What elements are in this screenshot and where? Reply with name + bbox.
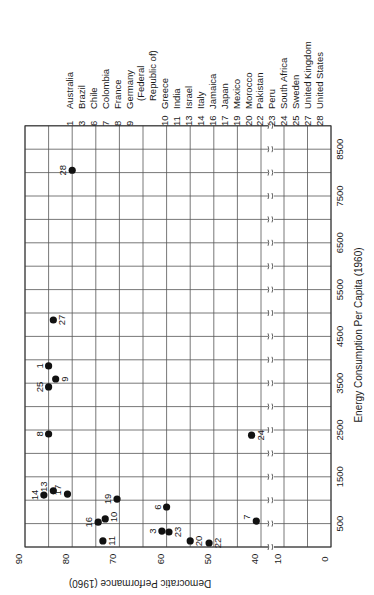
legend-number: 27 <box>302 115 313 126</box>
x-tick-label: 1500 <box>334 466 345 487</box>
x-tick-label: 5500 <box>334 279 345 300</box>
point-label: 9 <box>59 376 70 381</box>
legend-number: 23 <box>266 115 277 126</box>
point-label: 8 <box>34 431 45 436</box>
y-tick-label: 10 <box>272 554 283 565</box>
data-point-6 <box>163 503 170 510</box>
legend-number: 28 <box>314 115 325 126</box>
legend-country: Greece <box>159 78 170 109</box>
legend-country: Jamaica <box>207 73 218 109</box>
point-label: 1 <box>34 363 45 368</box>
y-tick-label: 40 <box>249 554 260 565</box>
legend-country: South Africa <box>278 57 289 109</box>
legend-number: 14 <box>195 115 206 126</box>
y-tick-label: 70 <box>107 554 118 565</box>
legend-country: Pakistan <box>254 73 265 109</box>
point-label: 6 <box>152 504 163 509</box>
legend-country: Sweden <box>290 75 301 109</box>
point-label: 14 <box>29 490 40 501</box>
data-point-3 <box>158 527 165 534</box>
legend-number: 24 <box>278 115 289 126</box>
y-tick-label: 60 <box>155 554 166 565</box>
data-point-16 <box>95 519 102 526</box>
y-tick-label: 90 <box>13 554 24 565</box>
legend-number: 20 <box>243 115 254 126</box>
legend-country: Israel <box>183 86 194 109</box>
y-tick-label: 80 <box>60 554 71 565</box>
point-label: 25 <box>34 382 45 393</box>
legend-number: 16 <box>207 115 218 126</box>
point-label: 7 <box>241 514 252 519</box>
legend-country: India <box>171 88 182 109</box>
legend-number: 8 <box>112 121 123 126</box>
data-point-7 <box>253 517 260 524</box>
legend-country: Japan <box>219 83 230 109</box>
legend-country: Germany <box>124 70 135 109</box>
point-label: 11 <box>106 536 117 546</box>
y-tick-label: 0 <box>319 556 330 561</box>
legend-country: Italy <box>195 91 206 109</box>
legend-number: 17 <box>219 115 230 126</box>
legend-country: (Federal <box>135 66 146 101</box>
x-tick-label: 8500 <box>334 139 345 160</box>
legend-number: 11 <box>171 116 182 126</box>
legend-country: Mexico <box>231 79 242 109</box>
legend-country: United Kingdom <box>302 41 313 109</box>
data-point-25 <box>45 383 52 390</box>
y-axis-label: Democratic Performance (1960) <box>69 578 211 589</box>
data-point-19 <box>113 495 120 502</box>
grid-lines <box>25 126 331 547</box>
legend-number: 6 <box>88 121 99 126</box>
legend-country: Australia <box>64 71 75 109</box>
legend-country: France <box>112 79 123 109</box>
point-label: 16 <box>83 517 94 528</box>
legend-number: 7 <box>100 121 111 126</box>
legend-country: Peru <box>266 89 277 109</box>
legend-number: 3 <box>76 121 87 126</box>
data-point-28 <box>69 167 76 174</box>
point-label: 19 <box>102 494 113 505</box>
data-point-8 <box>45 430 52 437</box>
data-point-14 <box>40 491 47 498</box>
legend-country: Colombia <box>100 68 111 109</box>
legend: 1Australia3Brazil6Chile7Colombia8France9… <box>64 41 325 126</box>
point-label: 27 <box>56 315 67 326</box>
legend-number: 13 <box>183 115 194 126</box>
axis-break-marks <box>268 123 274 550</box>
legend-number: 10 <box>159 115 170 126</box>
point-label: 3 <box>147 528 158 533</box>
x-tick-label: 6500 <box>334 232 345 253</box>
point-label: 24 <box>255 430 266 441</box>
point-label: 22 <box>212 538 223 549</box>
data-point-17 <box>64 491 71 498</box>
data-points: 1367891011131416171920222324252728 <box>29 165 266 548</box>
point-label: 13 <box>38 482 49 493</box>
x-tick-label: 3500 <box>334 373 345 394</box>
legend-country: Republic of) <box>147 50 158 101</box>
legend-number: 19 <box>231 115 242 126</box>
legend-country: Chile <box>88 87 99 109</box>
legend-number: 25 <box>290 115 301 126</box>
y-tick-label: 50 <box>202 554 213 565</box>
point-label: 23 <box>172 527 183 538</box>
legend-number: 22 <box>254 115 265 126</box>
x-tick-label: 500 <box>334 516 345 532</box>
point-label: 28 <box>57 165 68 176</box>
legend-country: Morocco <box>243 73 254 109</box>
x-axis-label: Energy Consumption Per Capita (1960) <box>353 247 364 422</box>
point-label: 20 <box>193 536 204 547</box>
x-tick-label: 2500 <box>334 419 345 440</box>
legend-number: 1 <box>64 121 75 126</box>
x-tick-label: 7500 <box>334 185 345 206</box>
point-label: 17 <box>52 485 63 496</box>
data-point-1 <box>45 362 52 369</box>
point-label: 10 <box>108 512 119 523</box>
legend-country: United States <box>314 52 325 109</box>
x-tick-label: 4500 <box>334 326 345 347</box>
legend-number: 9 <box>124 121 135 126</box>
legend-country: Brazil <box>76 85 87 109</box>
scatter-chart: 1367891011131416171920222324252728 50015… <box>0 0 374 595</box>
